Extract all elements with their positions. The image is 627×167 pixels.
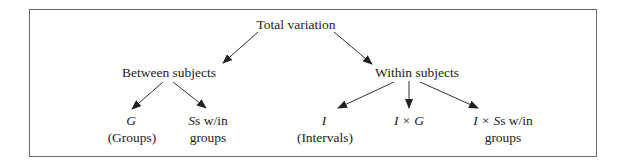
node-groups-symbol: G <box>126 114 136 128</box>
arrow-between-to-ss <box>173 82 206 108</box>
node-i-by-g: I × G <box>394 114 424 128</box>
node-i-by-ss-line1: I × Ss w/in <box>473 114 533 128</box>
ss-symbol: S <box>188 113 195 128</box>
node-within-subjects: Within subjects <box>375 66 459 80</box>
i-by-ss-suffix: s w/in <box>500 113 533 128</box>
node-ss-within-groups-line1: Ss w/in <box>188 114 227 128</box>
node-intervals-symbol: I <box>322 114 327 128</box>
arrow-total-to-between <box>223 32 258 63</box>
arrow-total-to-within <box>334 32 372 64</box>
node-between-subjects: Between subjects <box>122 66 216 80</box>
arrow-between-to-groups <box>132 82 163 109</box>
node-ss-within-groups-line2: groups <box>190 131 227 145</box>
node-intervals-label: (Intervals) <box>297 131 353 145</box>
i-by-s-symbol: I × S <box>473 113 500 128</box>
arrow-within-to-intervals <box>338 82 394 108</box>
arrow-within-to-ixss <box>420 82 478 108</box>
ss-suffix: s w/in <box>195 113 228 128</box>
node-i-by-ss-line2: groups <box>485 131 522 145</box>
node-groups-label: (Groups) <box>108 131 157 145</box>
node-total-variation: Total variation <box>257 18 336 32</box>
